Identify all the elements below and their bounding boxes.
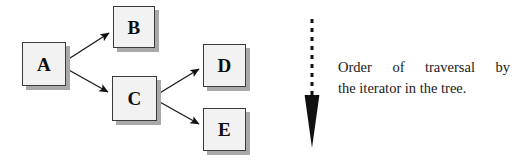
- tree-node-c: C: [112, 76, 157, 121]
- tree-traversal-figure: A B C D E Order of traversal by the iter…: [0, 0, 516, 166]
- traversal-caption-line-1: Order of traversal by: [338, 57, 510, 78]
- tree-node-d: D: [203, 44, 246, 87]
- tree-node-d-label: D: [218, 56, 232, 75]
- tree-node-b-label: B: [128, 18, 141, 37]
- tree-node-c-label: C: [128, 89, 142, 108]
- edge-c-to-e: [158, 101, 199, 124]
- traversal-caption: Order of traversal by the iterator in th…: [338, 57, 510, 99]
- edge-a-to-b: [67, 33, 109, 60]
- edge-c-to-d: [158, 69, 199, 94]
- tree-node-e-label: E: [218, 120, 231, 139]
- edge-a-to-c: [67, 69, 108, 92]
- tree-node-b: B: [113, 6, 155, 48]
- caption-word-1: Order: [338, 57, 372, 78]
- tree-node-a-label: A: [37, 55, 51, 74]
- traversal-arrow-head: [305, 95, 320, 148]
- traversal-direction-arrow: [305, 19, 320, 148]
- tree-node-a: A: [22, 42, 66, 86]
- tree-node-e: E: [203, 108, 246, 151]
- caption-word-3: traversal: [425, 57, 475, 78]
- traversal-caption-line-2: the iterator in the tree.: [338, 78, 510, 99]
- caption-word-2: of: [392, 57, 404, 78]
- caption-word-4: by: [495, 57, 510, 78]
